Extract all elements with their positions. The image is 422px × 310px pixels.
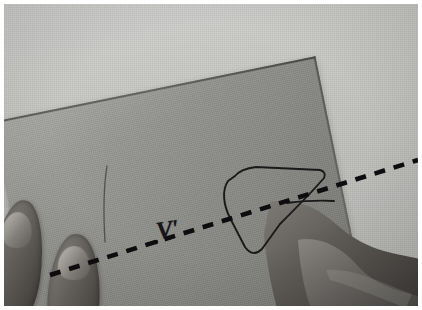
- v-prime-label: V': [154, 214, 180, 245]
- photo-frame: V': [4, 4, 418, 306]
- photo-container: V': [0, 0, 422, 310]
